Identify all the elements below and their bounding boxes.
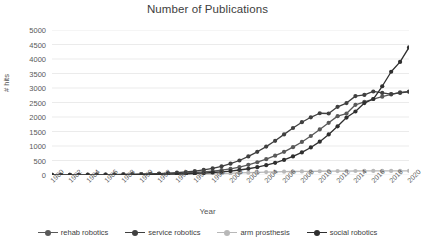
x-tick-label: 2000	[228, 168, 244, 184]
x-tick-label: 2020	[406, 168, 422, 184]
legend-marker-icon	[38, 229, 58, 237]
x-tick-label: 2004	[263, 168, 279, 184]
x-tick-label: 1982	[67, 168, 83, 184]
x-tick-label: 1992	[156, 168, 172, 184]
x-tick-label: 2002	[245, 168, 261, 184]
x-tick-label: 2014	[352, 168, 368, 184]
legend-item[interactable]: rehab robotics	[38, 228, 109, 237]
x-tick-label: 1996	[192, 168, 208, 184]
x-tick-label: 1984	[85, 168, 101, 184]
legend-marker-icon	[125, 229, 145, 237]
legend-label: social robotics	[330, 228, 378, 237]
x-tick-label: 1988	[120, 168, 136, 184]
x-tick-label: 2012	[335, 168, 351, 184]
legend-label: rehab robotics	[61, 228, 109, 237]
legend-marker-icon	[217, 229, 237, 237]
x-axis-title: Year	[0, 207, 415, 216]
x-tick-label: 1990	[138, 168, 154, 184]
legend-item[interactable]: service robotics	[125, 228, 200, 237]
x-tick-label: 1994	[174, 168, 190, 184]
x-tick-label: 2018	[388, 168, 404, 184]
x-tick-label: 2006	[281, 168, 297, 184]
x-tick-label: 2016	[370, 168, 386, 184]
x-tick-label: 1986	[103, 168, 119, 184]
legend-label: service robotics	[148, 228, 200, 237]
chart-legend: rehab roboticsservice roboticsarm prosth…	[0, 228, 415, 237]
x-tick-label: 1980	[49, 168, 65, 184]
legend-item[interactable]: social robotics	[307, 228, 378, 237]
x-tick-label: 1998	[210, 168, 226, 184]
legend-item[interactable]: arm prosthesis	[217, 228, 289, 237]
x-tick-label: 2008	[299, 168, 315, 184]
x-tick-label: 2010	[317, 168, 333, 184]
legend-marker-icon	[307, 229, 327, 237]
legend-label: arm prosthesis	[240, 228, 289, 237]
